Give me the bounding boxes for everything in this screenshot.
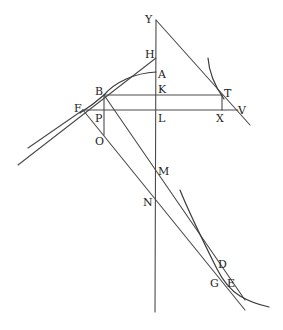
label-G: G: [210, 277, 219, 290]
label-V: V: [237, 104, 247, 117]
label-M: M: [158, 165, 169, 178]
label-O: O: [95, 135, 104, 148]
tangent-line-H: [18, 58, 156, 165]
label-K: K: [158, 83, 167, 96]
curve-DE: [180, 190, 269, 307]
geometric-diagram: Y H A K L M N B T F P X V O D G E: [0, 0, 283, 330]
curve-tangent-lower-left: [28, 110, 83, 148]
line-F-N-E: [83, 110, 245, 310]
line-YV: [156, 20, 250, 125]
label-P: P: [95, 112, 103, 125]
label-B: B: [95, 85, 103, 98]
label-T: T: [224, 87, 232, 100]
label-X: X: [216, 112, 224, 125]
label-N: N: [143, 196, 153, 209]
label-L: L: [158, 112, 166, 125]
curve-AB: [80, 72, 156, 113]
label-E: E: [227, 277, 235, 290]
label-H: H: [145, 48, 155, 61]
label-D: D: [218, 258, 227, 271]
label-Y: Y: [144, 13, 153, 26]
vertical-axis-line: [155, 20, 156, 312]
label-F: F: [74, 102, 82, 115]
label-A: A: [157, 68, 167, 81]
